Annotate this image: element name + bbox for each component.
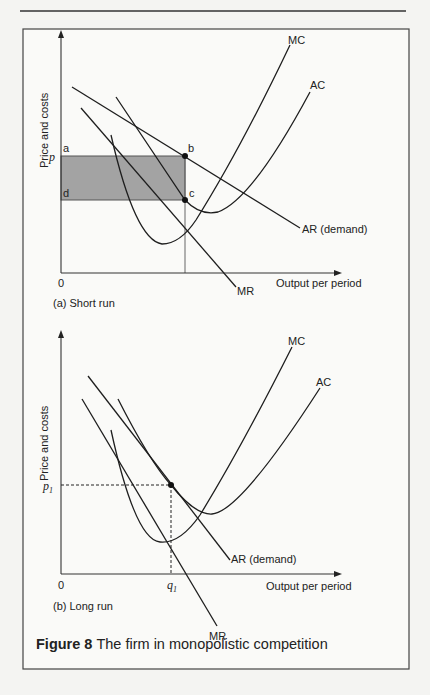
ac-label: AC	[310, 79, 325, 91]
mr-label: MR	[237, 285, 254, 297]
ar-label: AR (demand)	[231, 553, 296, 565]
point-a-label: a	[63, 142, 70, 154]
mc-label: MC	[288, 335, 305, 347]
profit-area	[61, 156, 185, 200]
x-axis-label: Output per period	[276, 277, 362, 289]
figure-frame	[23, 29, 409, 669]
point-c-label: c	[189, 187, 195, 199]
panel-label-long-run: (b) Long run	[53, 600, 113, 612]
ac-label: AC	[316, 376, 331, 388]
origin-label: 0	[58, 277, 64, 289]
figure-caption: Figure 8 The firm in monopolistic compet…	[36, 636, 328, 652]
panel-label-short-run: (a) Short run	[53, 297, 115, 309]
tangency-point	[168, 482, 174, 488]
mc-label: MC	[288, 34, 305, 46]
y-axis-label: Price and costs	[38, 405, 50, 481]
x-axis-label: Output per period	[266, 580, 352, 592]
figure-number: Figure 8	[36, 636, 92, 652]
point-c	[182, 197, 188, 203]
point-d-label: d	[63, 187, 69, 199]
p-label: p	[48, 150, 55, 164]
figure-title: The firm in monopolistic competition	[96, 636, 327, 652]
point-b-label: b	[188, 142, 194, 154]
figure-canvas: Price and costs p a b c d MC AC AR (dema…	[0, 0, 430, 695]
origin-label: 0	[58, 579, 64, 591]
ar-label: AR (demand)	[302, 223, 367, 235]
